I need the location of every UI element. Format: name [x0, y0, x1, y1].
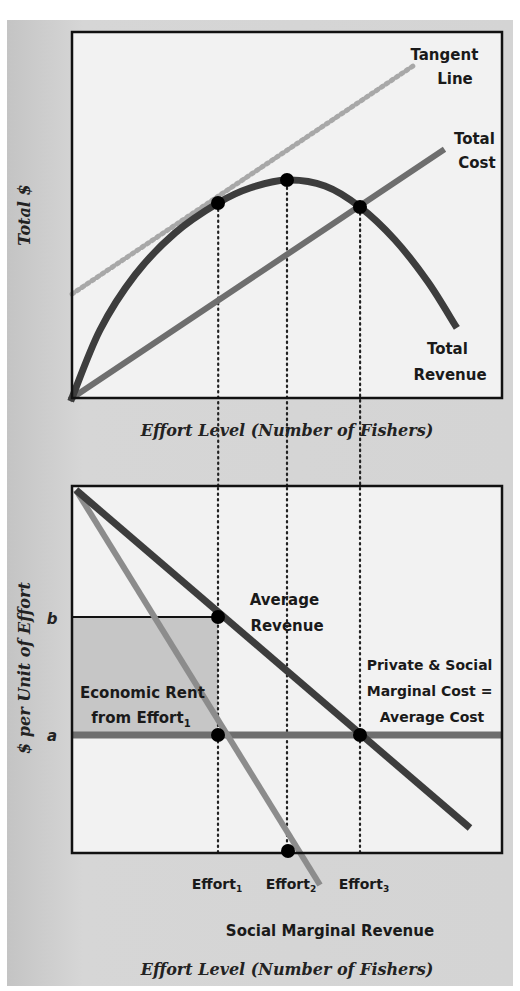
per-unit-chart-y-axis-title: $ per Unit of Effort [15, 582, 34, 754]
figure: Tangent Line Total Cost Total Revenue Ef… [0, 0, 520, 991]
point-effort1-tangency [211, 196, 225, 210]
per-unit-chart-x-axis-title: Effort Level (Number of Fishers) [140, 960, 434, 979]
point-smr-zero-at-effort2 [281, 844, 295, 858]
point-cost-at-effort1 [211, 728, 225, 742]
point-effort2-maximum [280, 173, 294, 187]
x-tick-effort1: Effort1 [192, 876, 242, 894]
y-tick-a: a [47, 727, 57, 745]
y-tick-b: b [47, 610, 58, 628]
point-effort3-intersection [353, 200, 367, 214]
point-ar-equals-cost-at-effort3 [353, 728, 367, 742]
marginal-cost-label: Private & Social Marginal Cost = Average… [367, 657, 498, 725]
total-chart-y-axis-title: Total $ [15, 184, 34, 245]
x-tick-effort2: Effort2 [266, 876, 316, 894]
total-chart-x-axis-title: Effort Level (Number of Fishers) [140, 421, 434, 440]
point-ar-at-effort1 [211, 610, 225, 624]
x-tick-effort3: Effort3 [339, 876, 389, 894]
social-marginal-revenue-label: Social Marginal Revenue [226, 922, 434, 940]
